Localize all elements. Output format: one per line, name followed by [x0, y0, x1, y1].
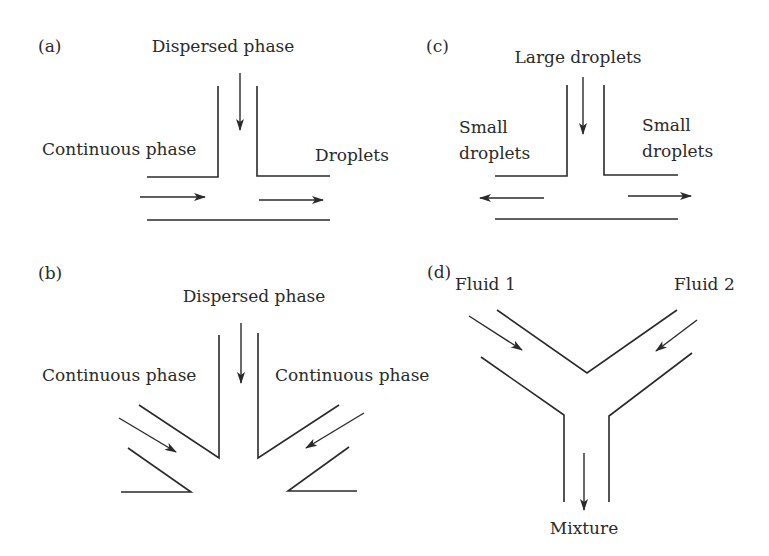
panel-c-top-label: Large droplets	[514, 47, 641, 67]
panel-d-bottom-label: Mixture	[550, 518, 618, 538]
panel-a-left-label: Continuous phase	[42, 139, 196, 159]
panel-b-top-label: Dispersed phase	[183, 286, 326, 306]
panel-b: (b) Dispersed phase Continuous phase Con…	[38, 263, 429, 492]
panel-c-left-label-line1: Small	[459, 117, 508, 137]
panel-b-left-label: Continuous phase	[42, 365, 196, 385]
panel-c-left-label-line2: droplets	[459, 143, 530, 163]
panel-d-wall-upper-v	[497, 310, 677, 373]
panel-d-arrow-fluid2-icon	[656, 320, 697, 351]
panel-d: (d) Fluid 1 Fluid 2 Mixture	[427, 262, 735, 538]
panel-b-right-label: Continuous phase	[275, 365, 429, 385]
panel-c: (c) Large droplets Small droplets Small …	[426, 36, 713, 219]
panel-d-wall-right	[609, 353, 692, 502]
panel-b-arrow-right-inlet-icon	[306, 413, 364, 448]
panel-b-label: (b)	[38, 263, 62, 283]
panel-a-right-label: Droplets	[315, 145, 389, 165]
panel-c-right-label-line2: droplets	[642, 141, 713, 161]
figure-canvas: (a) Dispersed phase Continuous phase Dro…	[0, 0, 769, 556]
panel-a-wall-left	[147, 86, 218, 177]
panel-d-left-label: Fluid 1	[455, 274, 516, 294]
panel-b-wall-left-center	[139, 335, 219, 458]
panel-a-top-label: Dispersed phase	[152, 36, 295, 56]
panel-a: (a) Dispersed phase Continuous phase Dro…	[38, 36, 389, 220]
panel-c-right-label-line1: Small	[642, 115, 691, 135]
panel-c-label: (c)	[426, 36, 449, 56]
panel-d-wall-left	[481, 357, 564, 502]
panel-b-wall-left-lower	[121, 448, 191, 492]
panel-d-label: (d)	[427, 262, 451, 282]
panel-b-wall-right-center	[258, 333, 339, 458]
panel-b-wall-right-lower	[288, 447, 357, 491]
panel-d-right-label: Fluid 2	[674, 274, 735, 294]
panel-a-label: (a)	[38, 36, 61, 56]
